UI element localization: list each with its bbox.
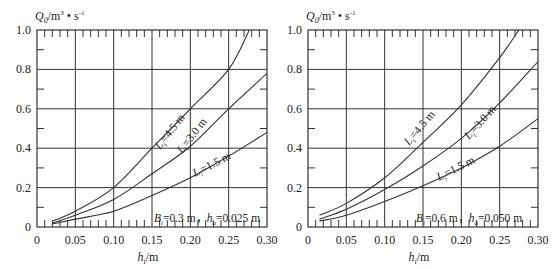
- curve-L45: [52, 30, 249, 221]
- x-tick-label: 0.25: [218, 233, 239, 247]
- chart-right: 00.050.100.150.200.250.3000.20.40.60.81.…: [271, 0, 551, 269]
- y-tick-label: 0: [25, 220, 31, 234]
- grid: [37, 30, 267, 227]
- x-tick-label: 0.10: [374, 233, 395, 247]
- x-tick-label: 0.15: [413, 233, 434, 247]
- y-tick-label: 0.8: [16, 62, 31, 76]
- y-tick-label: 0.2: [16, 181, 31, 195]
- curve-label-L15: Li=1.5 m: [190, 149, 234, 181]
- y-tick-label: 1.0: [287, 23, 302, 37]
- chart-left: 00.050.100.150.200.250.3000.20.40.60.81.…: [0, 0, 280, 269]
- x-tick-label: 0.25: [489, 233, 510, 247]
- x-tick-label: 0.05: [65, 233, 86, 247]
- curve-label-L45: Li=4.5 m: [401, 108, 440, 150]
- curve-label-L15: Li=1.5 m: [434, 153, 478, 185]
- y-tick-label: 0: [296, 220, 302, 234]
- x-tick-label: 0: [34, 233, 40, 247]
- x-tick-label: 0.10: [103, 233, 124, 247]
- y-axis-title: Q0/m3 • s-1: [35, 9, 85, 25]
- y-tick-label: 0.2: [287, 181, 302, 195]
- y-axis-title: Q0/m3 • s-1: [306, 9, 356, 25]
- y-tick-label: 1.0: [16, 23, 31, 37]
- x-tick-label: 0.05: [336, 233, 357, 247]
- x-axis-title: hi/m: [138, 250, 160, 266]
- x-axis-title: hi/m: [409, 250, 431, 266]
- y-tick-label: 0.8: [287, 62, 302, 76]
- y-tick-label: 0.4: [16, 141, 31, 155]
- x-tick-label: 0.15: [142, 233, 163, 247]
- curve-L15: [320, 119, 539, 221]
- x-tick-label: 0.20: [180, 233, 201, 247]
- y-tick-label: 0.6: [16, 102, 31, 116]
- y-tick-label: 0.6: [287, 102, 302, 116]
- curve-L30: [320, 62, 539, 220]
- y-tick-label: 0.4: [287, 141, 302, 155]
- x-tick-label: 0: [305, 233, 311, 247]
- x-tick-label: 0.20: [451, 233, 472, 247]
- x-tick-label: 0.30: [528, 233, 549, 247]
